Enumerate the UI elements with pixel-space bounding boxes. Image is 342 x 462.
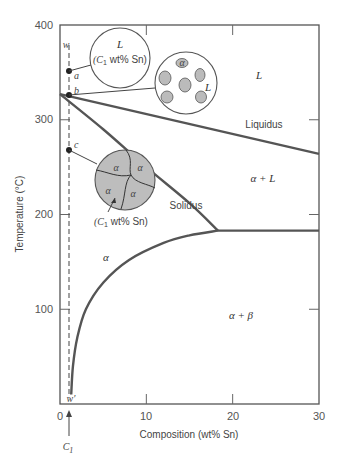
x-tick-label-10: 10 [140,410,152,422]
microstructure-b: α L [155,52,217,114]
c1-arrow-head [66,410,72,417]
caption-open: (C [94,216,104,228]
caption-rest: wt% Sn) [107,54,147,65]
microstructure-a-caption: (C1 wt% Sn) [93,54,147,66]
alpha-particle [159,71,171,85]
point-a-label: a [74,70,79,81]
w-label: w [63,39,70,50]
y-tick-label-400: 400 [35,19,53,31]
alpha-particle [179,78,191,92]
w-prime-label: w′ [67,393,77,404]
x-tick-label-0: 0 [57,410,63,422]
microstructure-c: α α α α (C1 wt% Sn) [94,150,155,228]
region-label-alpha-plus-liquid: α + L [251,172,276,184]
alpha-particle [161,91,173,103]
grain-label-alpha: α [130,188,136,199]
region-label-liquid: L [255,69,262,81]
region-label-alpha-plus-beta: α + β [229,309,254,321]
liquidus-label: Liquidus [245,119,282,130]
y-tick-label-200: 200 [35,208,53,220]
microstructure-a-phase: L [116,38,123,50]
x-axis-title: Composition (wt% Sn) [140,429,239,440]
phase-diagram: 0 10 20 30 100 200 300 400 Composition (… [0,0,342,462]
phase-boundaries [60,94,319,394]
microstructure-a: L (C1 wt% Sn) [90,28,150,88]
point-c-label: c [74,139,79,150]
region-label-alpha: α [103,251,109,263]
alpha-particle [195,69,205,82]
microstructure-c-circle [95,150,155,210]
c1-label: C1 [63,441,74,455]
x-tick-label-30: 30 [313,410,325,422]
solvus-line [71,231,218,395]
solidus-label: Solidus [170,200,203,211]
microstructure-b-liquid-label: L [204,81,211,93]
leader-line-a [69,65,91,71]
c1-sub: 1 [69,446,73,455]
leader-line-b [69,88,155,95]
y-tick-label-100: 100 [35,303,53,315]
caption-rest: wt% Sn) [108,216,148,227]
x-tick-label-20: 20 [227,410,239,422]
microstructure-c-caption: (C1 wt% Sn) [94,216,148,228]
caption-open: (C [93,54,103,66]
y-tick-label-300: 300 [35,113,53,125]
grain-label-alpha: α [105,185,111,196]
leader-line-c [69,150,97,164]
grain-label-alpha: α [113,162,119,173]
alpha-particle-label: α [179,57,185,68]
y-axis-title: Temperature (°C) [14,176,25,253]
grain-label-alpha: α [137,162,143,173]
